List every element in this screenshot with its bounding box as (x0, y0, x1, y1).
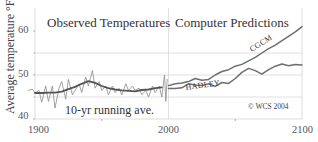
cgcm-line (169, 27, 303, 86)
x-tick-label: 1900 (28, 124, 49, 135)
panel-title-predictions: Computer Predictions (175, 15, 289, 31)
copyright-label: © WCS 2004 (248, 102, 289, 111)
y-tick-label: 40 (18, 110, 29, 121)
x-tick-label: 2000 (158, 124, 179, 135)
y-tick-label: 60 (18, 24, 29, 35)
x-tick-label: 2100 (292, 124, 313, 135)
y-tick-label: 50 (18, 68, 29, 79)
y-axis-label: Average temperature °F (3, 0, 18, 114)
running-average-label: 10-yr running ave. (65, 103, 154, 118)
panel-title-observed: Observed Temperatures (47, 15, 170, 31)
